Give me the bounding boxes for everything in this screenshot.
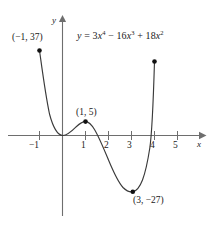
equation-term3-exp: 2	[160, 29, 163, 36]
equation-term2-exp: 3	[131, 29, 134, 36]
equation-equals: =	[84, 30, 90, 41]
annotation-label-local-min: (3, −27)	[133, 196, 164, 206]
x-tick-label-1: 1	[81, 141, 86, 151]
point-local-min	[131, 190, 136, 195]
x-tick-label-5: 5	[173, 141, 178, 151]
equation-term1-exp: 4	[102, 29, 105, 36]
equation-label: y = 3x4 − 16x3 + 18x2	[77, 31, 164, 41]
equation-term2-coef: 16	[117, 30, 127, 41]
function-curve	[40, 51, 155, 192]
x-tick-label-neg1: −1	[29, 141, 39, 151]
graph-figure: y = 3x4 − 16x3 + 18x2 (−1, 37) (1, 5) (3…	[0, 0, 211, 232]
annotation-label-left-endpoint: (−1, 37)	[12, 33, 43, 43]
y-axis	[59, 15, 66, 216]
marked-points	[37, 48, 157, 194]
annotation-label-local-max: (1, 5)	[76, 108, 97, 118]
y-axis-label: y	[52, 16, 56, 25]
equation-term3-coef: 18	[146, 30, 156, 41]
equation-lhs: y	[77, 30, 82, 41]
point-left-endpoint	[37, 48, 42, 53]
equation-op2: +	[137, 30, 143, 41]
equation-op1: −	[108, 30, 114, 41]
x-axis-label: x	[197, 140, 201, 149]
x-tick-label-4: 4	[150, 141, 155, 151]
x-tick-label-2: 2	[104, 141, 109, 151]
x-tick-label-3: 3	[127, 141, 132, 151]
point-right-endpoint	[152, 59, 157, 64]
point-local-max	[83, 119, 88, 124]
x-axis	[8, 132, 207, 139]
